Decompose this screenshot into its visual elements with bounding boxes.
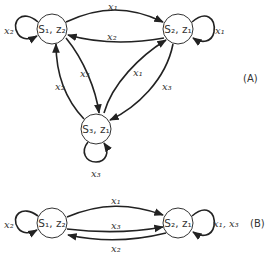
node-b-s2-z1: S₂, z₁ [163,208,193,238]
node-a-s3-z1: S₃, z₁ [81,114,111,144]
edge-label-a-s3-s1: x₂ [55,81,65,92]
node-label: S₁, z₂ [38,23,65,35]
edge-label-a-s3-s2: x₁ [133,67,143,78]
edge-label-b-s1-self: x₂ [4,219,14,230]
edge-a-s3-self [84,142,107,162]
state-diagram-canvas: x₂ x₁ x₂ x₁ x₃ x₂ x₁ x₃ x₃ S₁, z₂ [0,0,269,262]
edge-label-a-s1-s2: x₁ [108,1,118,12]
diagram-a: x₂ x₁ x₂ x₁ x₃ x₂ x₁ x₃ x₃ S₁, z₂ [4,1,258,179]
node-a-s2-z1: S₂, z₁ [163,14,193,44]
edge-b-s1-s2-x1 [67,206,163,217]
edge-label-b-s1-s2-x1: x₁ [111,195,121,206]
edge-label-a-s2-s3: x₃ [162,81,172,92]
edge-b-s2-self [192,210,214,235]
edge-label-b-s2-self: x₁, x₃ [213,218,239,229]
edge-a-s1-self [15,16,38,39]
node-label: S₂, z₁ [164,217,191,229]
node-label: S₃, z₁ [82,123,109,135]
node-a-s1-z2: S₁, z₂ [37,14,67,44]
edge-label-a-s3-self: x₃ [91,168,101,179]
node-label: S₁, z₂ [38,217,65,229]
edge-label-a-s2-s1: x₂ [107,31,117,42]
edge-b-s1-self [15,211,38,233]
edge-b-s2-s1 [68,233,166,240]
edge-label-b-s2-s1: x₂ [111,243,121,254]
edge-label-a-s1-self: x₂ [4,25,14,36]
edge-label-a-s2-self: x₁ [215,25,225,36]
diagram-label-b: (B) [250,218,265,229]
edge-a-s2-self [192,16,214,41]
edge-label-a-s1-s3: x₃ [80,68,90,79]
node-label: S₂, z₁ [164,23,191,35]
diagram-b: x₂ x₁ x₃ x₂ x₁, x₃ S₁, z₂ S₂, z₁ (B) [4,195,265,254]
node-b-s1-z2: S₁, z₂ [37,208,67,238]
diagram-label-a: (A) [243,73,258,84]
edge-label-b-s1-s2-x3: x₃ [111,220,121,231]
